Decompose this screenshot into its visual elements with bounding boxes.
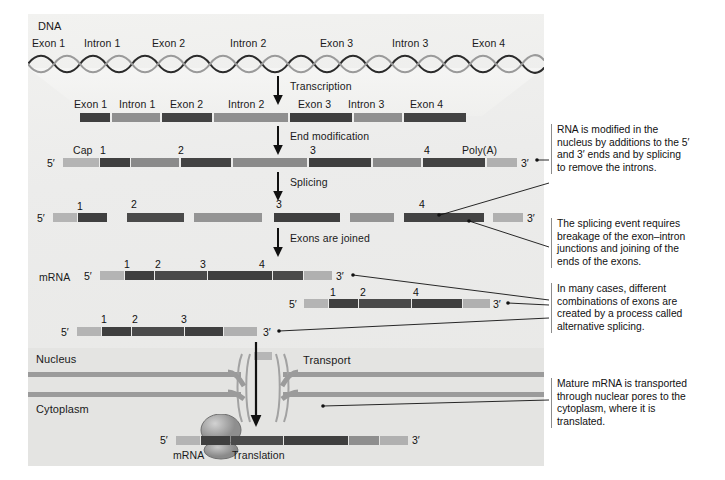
figure-canvas: DNA Exon 1 Intron 1 Exon 2 Intron 2 Exon… <box>0 0 725 480</box>
callout-leader-lines <box>0 0 725 480</box>
